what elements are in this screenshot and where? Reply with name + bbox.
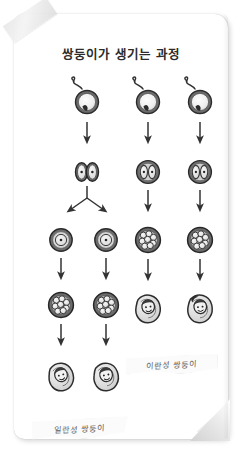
stage-fertilized-egg xyxy=(185,77,212,113)
twin-formation-diagram xyxy=(14,14,228,439)
stage-fertilized-egg xyxy=(133,77,160,113)
label-identical-twins-text: 일란성 쌍둥이 xyxy=(54,422,106,436)
column-fraternal-a xyxy=(133,77,162,324)
stage-baby xyxy=(91,361,121,393)
stage-morula xyxy=(136,228,161,253)
column-identical xyxy=(45,77,120,394)
stage-baby xyxy=(45,360,76,393)
stage-baby xyxy=(134,294,162,325)
stage-two-cell xyxy=(189,161,212,184)
stage-morula xyxy=(49,293,74,318)
label-fraternal-twins-text: 이란성 쌍둥이 xyxy=(146,358,198,371)
stage-morula xyxy=(94,293,119,318)
stage-two-cell xyxy=(137,161,160,184)
stage-two-cell-split xyxy=(76,163,99,182)
stage-baby xyxy=(186,294,213,324)
arrow-split xyxy=(70,186,104,210)
stage-morula xyxy=(188,228,213,253)
paper-sheet: 쌍둥이가 생기는 과정 xyxy=(14,14,228,439)
column-fraternal-b xyxy=(185,77,214,324)
stage-single-cell xyxy=(50,229,72,251)
stage-single-cell xyxy=(95,229,117,251)
stage-fertilized-egg xyxy=(72,77,99,113)
